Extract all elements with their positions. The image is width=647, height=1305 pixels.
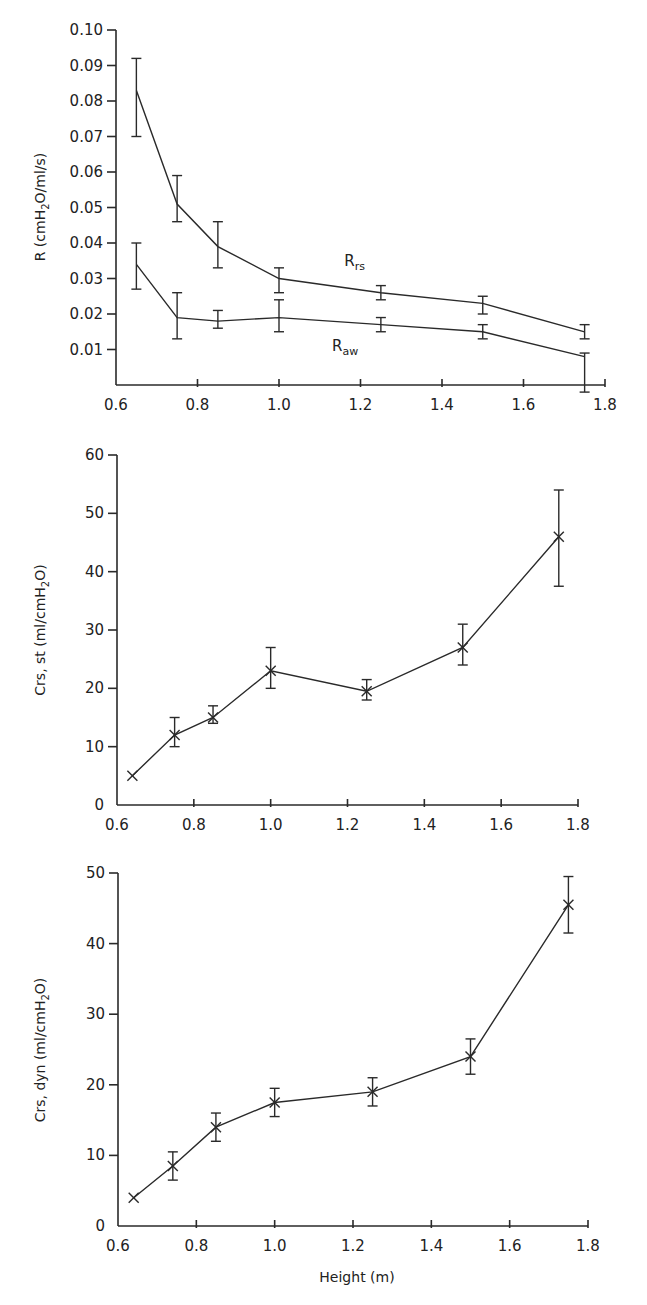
x-marker-icon	[129, 1193, 139, 1203]
x-tick-label: 0.6	[106, 1237, 130, 1255]
resistance-chart: 0.60.81.01.21.41.61.80.010.020.030.040.0…	[32, 21, 617, 414]
y-tick-label: 0.03	[70, 270, 103, 288]
static-compliance-chart: 0.60.81.01.21.41.61.80102030405060Crs, s…	[32, 446, 590, 834]
x-tick-label: 1.0	[267, 396, 291, 414]
error-bar	[274, 268, 284, 293]
x-tick-label: 1.2	[349, 396, 373, 414]
y-tick-label: 0	[95, 1217, 105, 1235]
y-tick-label: 0.10	[70, 21, 103, 39]
x-axis-title: Height (m)	[319, 1269, 394, 1285]
y-tick-label: 0	[94, 796, 104, 814]
x-tick-label: 0.8	[186, 396, 210, 414]
error-bar	[131, 58, 141, 136]
error-bar	[213, 310, 223, 328]
series-label-raw: Raw	[332, 337, 358, 358]
y-tick-label: 40	[85, 563, 104, 581]
y-tick-label: 0.01	[70, 341, 103, 359]
x-tick-label: 1.4	[412, 816, 436, 834]
x-marker-icon	[127, 771, 137, 781]
x-tick-label: 0.6	[105, 816, 129, 834]
y-tick-label: 10	[85, 738, 104, 756]
x-tick-label: 1.0	[259, 816, 283, 834]
y-tick-label: 30	[85, 621, 104, 639]
series-rrs: Rrs	[131, 58, 589, 338]
y-axis-title: R (cmH2O/ml/s)	[32, 153, 51, 262]
x-tick-label: 1.4	[430, 396, 454, 414]
y-tick-label: 20	[85, 679, 104, 697]
error-bar	[131, 243, 141, 289]
error-bar	[580, 325, 590, 339]
x-tick-label: 1.8	[576, 1237, 600, 1255]
x-tick-label: 1.6	[498, 1237, 522, 1255]
series-line	[132, 537, 558, 776]
y-tick-label: 60	[85, 446, 104, 464]
x-tick-label: 1.8	[593, 396, 617, 414]
error-bar	[554, 490, 564, 586]
x-tick-label: 1.2	[341, 1237, 365, 1255]
x-tick-label: 1.2	[336, 816, 360, 834]
y-axis-title: Crs, st (ml/cmH2O)	[32, 564, 51, 695]
y-tick-label: 0.02	[70, 305, 103, 323]
error-bar	[274, 300, 284, 332]
series-line	[134, 905, 569, 1198]
error-bar	[172, 293, 182, 339]
error-bar	[213, 222, 223, 268]
series-line	[136, 264, 584, 356]
x-tick-label: 1.4	[419, 1237, 443, 1255]
x-tick-label: 0.6	[104, 396, 128, 414]
dynamic-compliance-chart: 0.60.81.01.21.41.61.801020304050Crs, dyn…	[32, 864, 600, 1285]
y-tick-label: 0.05	[70, 199, 103, 217]
y-tick-label: 50	[85, 504, 104, 522]
y-tick-label: 0.06	[70, 163, 103, 181]
y-tick-label: 0.07	[70, 128, 103, 146]
y-tick-label: 0.09	[70, 57, 103, 75]
series-crsst	[127, 490, 563, 781]
y-tick-label: 30	[86, 1005, 105, 1023]
series-crsdyn	[129, 877, 574, 1203]
y-tick-label: 50	[86, 864, 105, 882]
x-tick-label: 0.8	[184, 1237, 208, 1255]
error-bar	[580, 353, 590, 392]
x-tick-label: 1.6	[489, 816, 513, 834]
y-tick-label: 0.08	[70, 92, 103, 110]
error-bar	[478, 296, 488, 314]
error-bar	[172, 176, 182, 222]
figure-canvas: 0.60.81.01.21.41.61.80.010.020.030.040.0…	[0, 0, 647, 1305]
x-tick-label: 1.8	[566, 816, 590, 834]
series-line	[136, 90, 584, 331]
x-tick-label: 1.0	[263, 1237, 287, 1255]
y-axis-title: Crs, dyn (ml/cmH2O)	[32, 978, 51, 1123]
series-label-rrs: Rrs	[344, 252, 365, 273]
y-tick-label: 10	[86, 1146, 105, 1164]
y-tick-label: 0.04	[70, 234, 103, 252]
y-tick-label: 40	[86, 935, 105, 953]
y-tick-label: 20	[86, 1076, 105, 1094]
x-tick-label: 0.8	[182, 816, 206, 834]
x-tick-label: 1.6	[512, 396, 536, 414]
